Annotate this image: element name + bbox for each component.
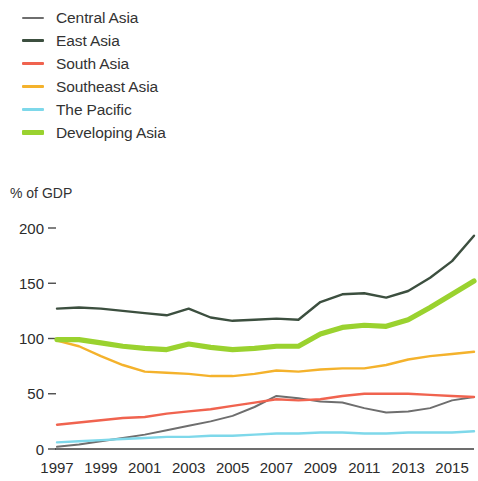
plot-svg: 0501001502001997199920012003200520072009… — [0, 205, 478, 481]
legend-item[interactable]: Developing Asia — [22, 121, 166, 144]
y-axis-tick-label: 0 — [36, 441, 44, 458]
legend-color-swatch — [22, 108, 44, 110]
x-axis-tick-label: 2015 — [435, 459, 468, 476]
series-line — [57, 236, 474, 321]
series-line — [57, 281, 474, 350]
legend-item[interactable]: The Pacific — [22, 98, 166, 121]
gdp-line-chart: Central AsiaEast AsiaSouth AsiaSoutheast… — [0, 0, 478, 481]
legend-color-swatch — [22, 39, 44, 41]
legend-item-label: East Asia — [56, 32, 120, 50]
legend-item[interactable]: South Asia — [22, 52, 166, 75]
legend-color-swatch — [22, 130, 44, 135]
series-line — [57, 394, 474, 425]
legend-item-label: Central Asia — [56, 9, 138, 27]
legend-color-swatch — [22, 85, 44, 87]
y-axis-tick-label: 50 — [27, 385, 44, 402]
chart-legend: Central AsiaEast AsiaSouth AsiaSoutheast… — [22, 6, 166, 144]
series-line — [57, 431, 474, 442]
x-axis-tick-label: 2003 — [172, 459, 205, 476]
x-axis-tick-label: 2009 — [304, 459, 337, 476]
y-axis-title: % of GDP — [10, 185, 72, 201]
x-axis-tick-label: 2013 — [391, 459, 424, 476]
x-axis-tick-label: 1997 — [40, 459, 73, 476]
y-axis-tick-label: 150 — [19, 275, 44, 292]
x-axis-tick-label: 1999 — [84, 459, 117, 476]
legend-color-swatch — [22, 17, 44, 19]
legend-color-swatch — [22, 62, 44, 64]
legend-item-label: South Asia — [56, 55, 129, 73]
legend-item-label: The Pacific — [56, 101, 132, 119]
x-axis-tick-label: 2011 — [348, 459, 380, 476]
x-axis-tick-label: 2005 — [216, 459, 249, 476]
legend-item[interactable]: East Asia — [22, 29, 166, 52]
plot-area: 0501001502001997199920012003200520072009… — [0, 205, 478, 481]
legend-item-label: Developing Asia — [56, 124, 166, 142]
y-axis-tick-label: 100 — [19, 330, 44, 347]
legend-item[interactable]: Southeast Asia — [22, 75, 166, 98]
x-axis-tick-label: 2001 — [128, 459, 161, 476]
x-axis-tick-label: 2007 — [260, 459, 293, 476]
legend-item-label: Southeast Asia — [56, 78, 158, 96]
y-axis-tick-label: 200 — [19, 220, 44, 237]
legend-item[interactable]: Central Asia — [22, 6, 166, 29]
